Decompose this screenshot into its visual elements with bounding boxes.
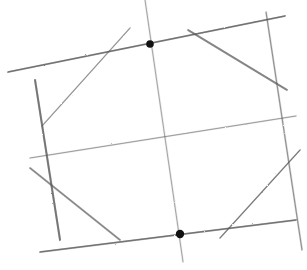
top-point [146,40,154,48]
line-diag-top-right [188,30,287,90]
line-bottom-edge [41,220,297,252]
line-right-vertical [266,12,302,250]
bottom-point [176,230,184,238]
line-diag-top-left [42,29,130,127]
line-center-vertical [146,0,184,262]
geometry-sketch-canvas [0,0,307,270]
line-left-vertical [35,80,60,240]
line-center-vertical [145,0,183,262]
line-left-vertical [35,81,60,241]
sketch-diagram [0,0,307,270]
line-diag-bottom-left [31,168,121,240]
lines-layer [8,0,303,263]
line-diag-bottom-left [30,168,120,240]
line-diag-top-right [188,31,287,91]
line-diag-bottom-left [30,169,120,241]
line-left-vertical [36,80,61,240]
line-right-vertical [267,12,303,250]
line-bottom-edge [40,221,296,253]
line-right-vertical [266,13,302,251]
